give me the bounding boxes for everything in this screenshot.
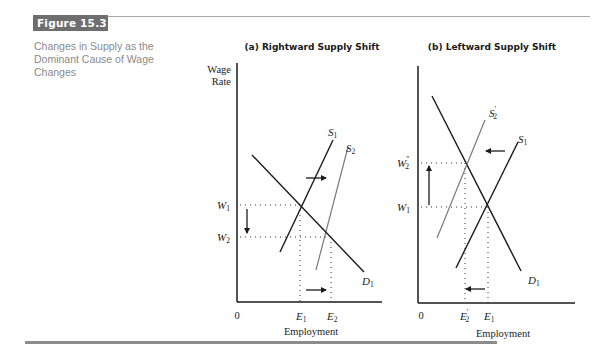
panel-b-e2-prime-label: E′2: [459, 308, 469, 324]
panel-a-e1-label: E1: [295, 310, 307, 324]
panel-b-s1-label: S1: [518, 133, 528, 147]
panel-a-demand-d1: [252, 155, 364, 272]
panel-b-e1-label: E1: [483, 310, 495, 324]
panel-a-xlabel: Employment: [284, 326, 338, 337]
panel-a-chart: (a) Rightward Supply Shift Wage Rate S1 …: [207, 42, 382, 337]
panel-a-w2-label: W2: [217, 231, 230, 245]
panel-a-s2-label: S2: [346, 142, 356, 156]
panel-b-title: (b) Leftward Supply Shift: [428, 42, 557, 52]
panel-b-xlabel: Employment: [476, 328, 530, 339]
panel-b-w2-label: W″2: [397, 155, 409, 171]
panel-b-chart: (b) Leftward Supply Shift S′2 S1 D1 W″2 …: [397, 42, 575, 339]
panel-a-origin-label: 0: [234, 310, 239, 321]
panel-b-demand-d1: [432, 96, 521, 271]
panel-a-w1-label: W1: [217, 199, 230, 213]
panel-a-e2-label: E2: [326, 310, 338, 324]
panel-b-guides: [421, 163, 488, 303]
panel-b-w1-label: W1: [397, 201, 410, 215]
panel-a-title: (a) Rightward Supply Shift: [244, 42, 380, 52]
panel-a-ylabel-line1: Wage: [207, 64, 231, 75]
figure-charts: (a) Rightward Supply Shift Wage Rate S1 …: [0, 0, 609, 360]
panel-a-d1-label: D1: [361, 275, 374, 289]
panel-b-supply-s2-prime: [437, 120, 485, 238]
panel-a-s1-label: S1: [328, 126, 338, 140]
panel-b-origin-label: 0: [418, 310, 423, 321]
panel-a-guides: [240, 205, 331, 302]
panel-a-ylabel-line2: Rate: [212, 76, 232, 87]
panel-b-d1-label: D1: [527, 274, 540, 288]
panel-b-s2-prime-label: S′2: [489, 105, 497, 121]
